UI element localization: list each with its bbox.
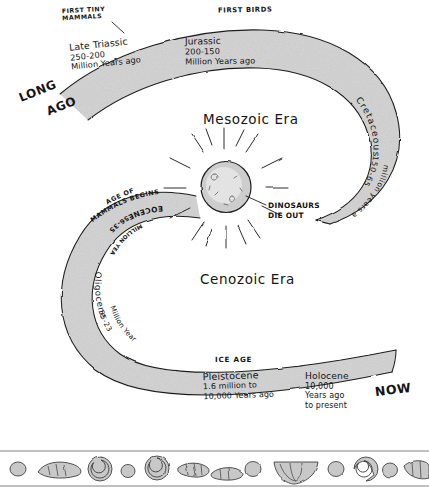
dinosaur-dieout-leader [246,196,266,205]
fossil-trilobite [38,462,81,478]
era-mesozoic: Mesozoic Era [203,112,299,128]
fossil-pebble [245,462,261,477]
event-ice-age: ICE AGE [215,356,252,364]
fossil-ammonite [145,456,169,480]
fossil-pebble [328,462,344,477]
fossil-ammonite [354,457,378,481]
cenozoic-band-texture [61,192,396,395]
fossil-shell [274,462,318,484]
fossil-trilobite [178,463,209,477]
period-pleistocene: Pleistocene 1.6 million to 10,000 Years … [202,369,274,402]
fossil-ammonite [88,457,112,481]
fossil-pebble [383,463,398,477]
era-cenozoic: Cenozoic Era [200,272,295,288]
fossil-pebble [121,465,135,478]
first-mammals-leader [112,22,124,33]
timeline-figure: Cretaceous 150-65 million years ago EOCE… [0,0,429,488]
fossil-border [0,448,429,488]
timeline-band-layer: Cretaceous 150-65 million years ago EOCE… [0,0,429,488]
event-dinosaurs-die-out: Dinosaurs Die out [268,201,320,220]
fossil-trilobite [404,461,429,479]
fossil-pebble [10,462,26,476]
event-first-birds: First Birds [218,6,273,15]
fossil-trilobite [211,468,243,481]
period-jurassic: Jurassic 200-150 Million Years ago [185,35,256,66]
event-first-tiny-mammals: FIRST TINY MAMMALS [62,5,106,22]
period-holocene: Holocene 10,000 Years ago to present [305,371,349,410]
asteroid-impact [164,128,288,248]
